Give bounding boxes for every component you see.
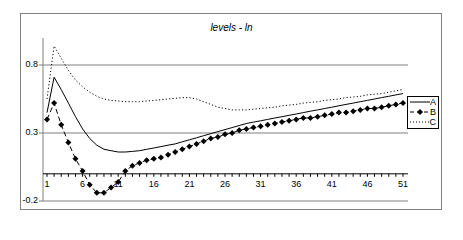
legend-item-b: B xyxy=(408,107,438,117)
solid-line-icon xyxy=(410,97,432,107)
series-a-line xyxy=(47,77,403,152)
y-tick-label: 0.3 xyxy=(8,127,38,137)
x-tick-label: 11 xyxy=(108,179,128,189)
y-tick-label: -0.2 xyxy=(8,195,38,205)
series-c-line xyxy=(47,46,403,110)
x-tick-label: 31 xyxy=(251,179,271,189)
x-tick-label: 16 xyxy=(144,179,164,189)
dashed-diamond-line-icon xyxy=(410,107,432,117)
x-tick-label: 41 xyxy=(322,179,342,189)
y-tick-label: 0.8 xyxy=(8,59,38,69)
legend-item-a: A xyxy=(408,97,438,107)
x-tick-label: 51 xyxy=(393,179,413,189)
x-tick-label: 46 xyxy=(357,179,377,189)
x-tick-label: 36 xyxy=(286,179,306,189)
x-tick-label: 1 xyxy=(37,179,57,189)
x-tick-label: 26 xyxy=(215,179,235,189)
legend-item-c: C xyxy=(408,117,438,127)
x-tick-label: 6 xyxy=(73,179,93,189)
x-tick-label: 21 xyxy=(179,179,199,189)
legend: A B C xyxy=(407,96,439,129)
